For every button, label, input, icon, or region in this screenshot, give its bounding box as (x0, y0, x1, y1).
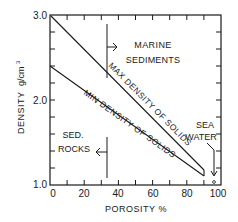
y-axis-title-main: DENSITY (16, 91, 26, 134)
y-tick-1: 1.0 (33, 179, 47, 190)
marine-label-1: MARINE (134, 40, 171, 50)
sea-water-label-2: WATER (185, 132, 217, 142)
sed-rocks-label-1: SED. (62, 130, 83, 140)
x-tick-60: 60 (147, 188, 159, 199)
y-tick-2: 2.0 (33, 95, 47, 106)
y-axis-title-sup: 3 (15, 60, 21, 64)
x-tick-0: 0 (50, 188, 56, 199)
x-tick-20: 20 (78, 188, 90, 199)
y-tick-3: 3.0 (33, 10, 47, 21)
marine-label-2: SEDIMENTS (126, 55, 180, 65)
y-axis-title-unit: g/cm (16, 66, 26, 86)
right-ticks (216, 32, 221, 168)
top-ticks (67, 15, 204, 20)
left-ticks (50, 32, 55, 168)
bottom-ticks (67, 180, 204, 185)
x-tick-80: 80 (181, 188, 193, 199)
sea-water-point (213, 181, 216, 184)
density-porosity-chart: 3.0 2.0 1.0 0 20 40 60 80 100 POROSITY %… (0, 0, 238, 222)
arrow-right-icon (107, 43, 117, 51)
sed-rocks-label-2: ROCKS (58, 144, 90, 154)
arrow-left-icon (96, 148, 107, 156)
y-axis-title: DENSITY g/cm 3 (15, 60, 26, 134)
sea-water-label-1: SEA (196, 120, 214, 130)
x-tick-40: 40 (112, 188, 124, 199)
x-axis-title: POROSITY % (105, 204, 167, 214)
sea-water-arrow-icon (207, 143, 217, 176)
x-tick-100: 100 (210, 188, 227, 199)
